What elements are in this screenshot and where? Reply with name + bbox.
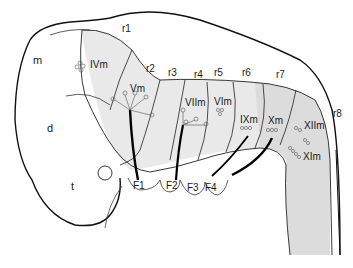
label-t: t <box>71 181 74 192</box>
diagram-drawing <box>0 0 353 268</box>
label-r6: r6 <box>242 68 251 78</box>
label-VIIm: VIIm <box>185 98 206 108</box>
label-d: d <box>47 123 53 134</box>
eye-vesicle <box>98 166 112 180</box>
nucleus-IVm-cells <box>75 61 85 72</box>
label-F2: F2 <box>166 181 178 191</box>
hindbrain-diagram: m d t r1 r2 r3 r4 r5 r6 r7 r8 IVm Vm VII… <box>0 0 353 268</box>
label-Vm: Vm <box>130 84 145 94</box>
label-r1: r1 <box>122 24 131 34</box>
label-F3: F3 <box>187 183 199 193</box>
label-XIIm: XIIm <box>304 121 325 131</box>
label-IXm: IXm <box>240 115 258 125</box>
label-r5: r5 <box>214 68 223 78</box>
label-r2: r2 <box>146 64 155 74</box>
label-r8: r8 <box>333 109 342 119</box>
label-r4: r4 <box>194 70 203 80</box>
label-VIm: VIm <box>214 97 232 107</box>
label-r3: r3 <box>168 68 177 78</box>
label-F4: F4 <box>205 183 217 193</box>
label-XIm: XIm <box>303 152 321 162</box>
label-m: m <box>33 55 42 66</box>
label-IVm: IVm <box>90 60 108 70</box>
label-Xm: Xm <box>268 116 283 126</box>
label-F1: F1 <box>133 181 145 191</box>
caudal-fill <box>255 82 330 255</box>
label-r7: r7 <box>276 70 285 80</box>
